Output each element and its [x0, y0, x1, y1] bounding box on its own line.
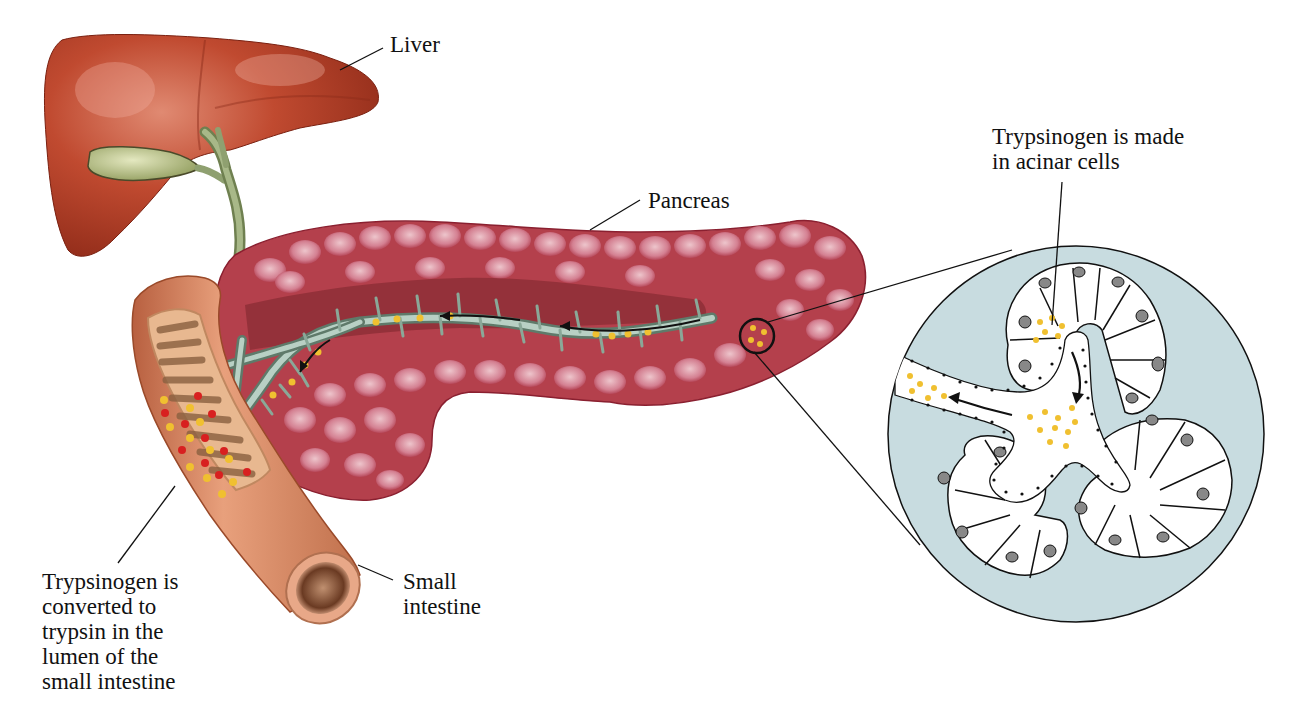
- small-intestine-leader: [358, 565, 393, 580]
- diagram-stage: Liver Pancreas Trypsinogen is made in ac…: [0, 0, 1302, 713]
- label-trypsin-conversion: Trypsinogen is converted to trypsin in t…: [42, 569, 179, 694]
- pancreas-leader: [590, 200, 640, 230]
- label-acinar-cells: Trypsinogen is made in acinar cells: [992, 124, 1184, 174]
- label-pancreas: Pancreas: [648, 188, 730, 213]
- illustration: [0, 0, 1302, 713]
- label-small-intestine: Small intestine: [403, 569, 481, 619]
- label-liver: Liver: [390, 32, 440, 57]
- pancreas: [214, 221, 865, 501]
- magnified-acinus: [888, 246, 1264, 622]
- liver-leader: [340, 48, 383, 70]
- conversion-leader: [118, 486, 175, 563]
